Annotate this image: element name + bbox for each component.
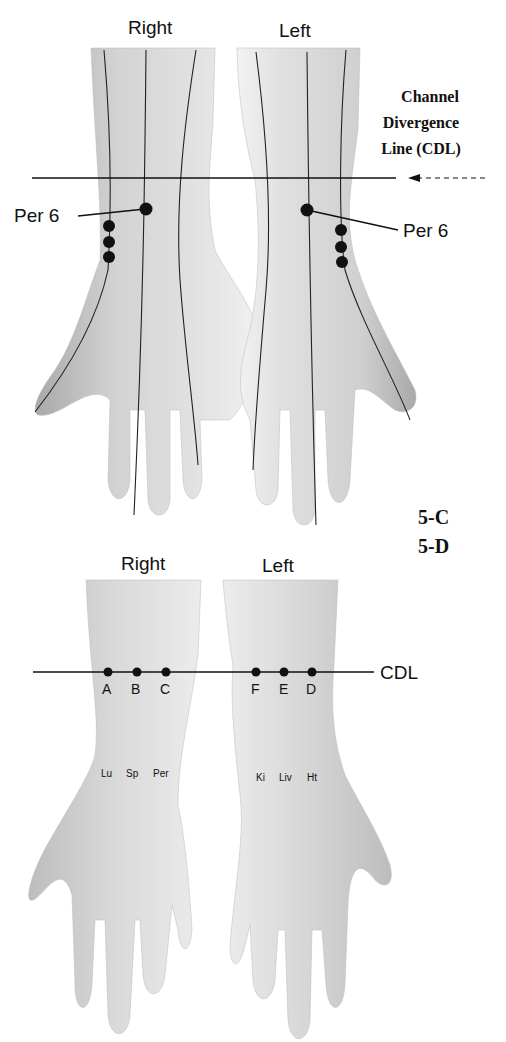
point-letter-f: F (251, 681, 260, 697)
point-d (308, 668, 317, 677)
organ-label-ht: Ht (307, 772, 317, 783)
bottom-hands-illustration (0, 575, 506, 1042)
organ-label-sp: Sp (126, 768, 138, 779)
organ-label-liv: Liv (279, 772, 292, 783)
point-letter-a: A (102, 681, 111, 697)
cdl-annotation-line1: Channel (380, 88, 480, 106)
figure-id-5c: 5-C (418, 506, 449, 529)
point-b (133, 668, 142, 677)
organ-label-lu: Lu (101, 768, 112, 779)
cdl-annotation-line2: Divergence (366, 114, 476, 132)
point-a (104, 668, 113, 677)
per6-point-right (140, 203, 153, 216)
point-e (280, 668, 289, 677)
per6-point-left (301, 204, 314, 217)
cdl-annotation-line3: Line (CDL) (366, 140, 476, 158)
point-letter-b: B (131, 681, 140, 697)
per6-label-left: Per 6 (403, 220, 448, 242)
organ-label-per: Per (153, 768, 169, 779)
point-letter-c: C (160, 681, 170, 697)
figure-id-5d: 5-D (418, 535, 449, 558)
point-f (252, 668, 261, 677)
point-letter-d: D (306, 681, 316, 697)
right-hand-top (35, 48, 262, 515)
point-letter-e: E (279, 681, 288, 697)
bottom-left-hand-label: Left (262, 555, 294, 577)
right-hand-bottom (29, 580, 201, 1034)
bottom-right-hand-label: Right (121, 553, 165, 575)
top-left-hand-label: Left (279, 20, 311, 42)
top-right-hand-label: Right (128, 17, 172, 39)
arrow-head-icon (408, 174, 420, 182)
point-c (162, 668, 171, 677)
cdl-label-bottom: CDL (380, 662, 418, 684)
per6-label-right: Per 6 (14, 205, 59, 227)
organ-label-ki: Ki (256, 772, 265, 783)
left-hand-bottom (223, 580, 391, 1039)
top-hands-illustration (0, 0, 506, 540)
